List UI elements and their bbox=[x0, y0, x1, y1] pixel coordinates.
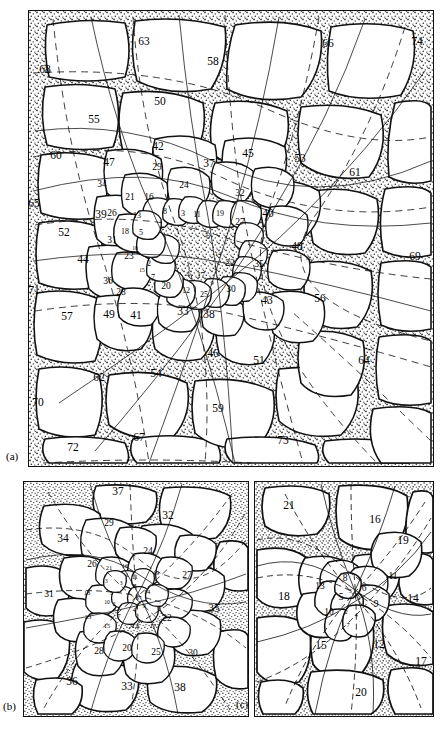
figure-phyllotaxis-cell-map: 1234567891011121314151617181920212223242… bbox=[0, 0, 444, 733]
panel-c-caption: (c) bbox=[236, 698, 248, 710]
panel-c-drawing bbox=[255, 482, 433, 716]
panel-b: 1234567891011121314151617181920212223242… bbox=[23, 481, 249, 717]
panel-c: 123456789101112131415161718192021 bbox=[254, 481, 434, 717]
panel-b-caption: (b) bbox=[3, 700, 16, 712]
panel-b-drawing bbox=[24, 482, 248, 716]
panel-a: 1234567891011121314151617181920212223242… bbox=[28, 10, 434, 467]
panel-a-caption: (a) bbox=[6, 450, 18, 462]
panel-a-drawing bbox=[29, 11, 433, 466]
